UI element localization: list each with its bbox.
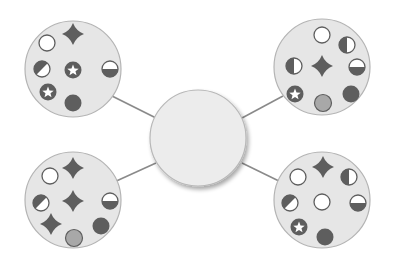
filled-circle-icon: [343, 86, 360, 103]
left-half-circle-icon: [286, 58, 302, 74]
diagram-canvas: [0, 0, 396, 269]
star-in-circle-icon: [65, 62, 82, 79]
empty-circle-icon: [314, 27, 330, 43]
center-circle: [150, 90, 246, 186]
filled-circle-icon: [93, 218, 110, 235]
star-in-circle-icon: [287, 86, 304, 103]
empty-circle-icon: [39, 35, 55, 51]
bottom-half-circle-icon: [102, 193, 118, 209]
left-half-circle-icon: [339, 37, 355, 53]
filled-circle-icon: [65, 95, 82, 112]
bubble-top-right: [274, 19, 370, 115]
diagonal-half-circle-icon: [34, 61, 50, 77]
diagonal-half-circle-icon: [33, 195, 49, 211]
star-in-circle-icon: [40, 84, 57, 101]
bottom-half-circle-icon: [350, 195, 366, 211]
bubble-bottom-left: [25, 152, 121, 248]
empty-circle-icon: [290, 169, 306, 185]
star-in-circle-icon: [291, 219, 308, 236]
empty-circle-icon: [314, 194, 330, 210]
empty-circle-icon: [42, 168, 58, 184]
filled-circle-icon: [317, 229, 334, 246]
connector-line-bottom-left: [112, 163, 156, 183]
gray-circle-icon: [315, 95, 332, 112]
bottom-half-circle-icon: [349, 59, 365, 75]
left-half-circle-icon: [341, 169, 357, 185]
connector-line-top-left: [112, 96, 156, 118]
connector-line-top-right: [242, 96, 283, 118]
bubble-bottom-right: [274, 152, 370, 248]
bubble-top-left: [25, 21, 121, 117]
bottom-half-circle-icon: [102, 61, 118, 77]
connector-line-bottom-right: [242, 163, 283, 183]
diagonal-half-circle-icon: [282, 195, 298, 211]
gray-circle-icon: [66, 230, 83, 247]
hub-and-spoke-diagram: [0, 0, 396, 269]
center-circle-shape: [150, 90, 246, 186]
